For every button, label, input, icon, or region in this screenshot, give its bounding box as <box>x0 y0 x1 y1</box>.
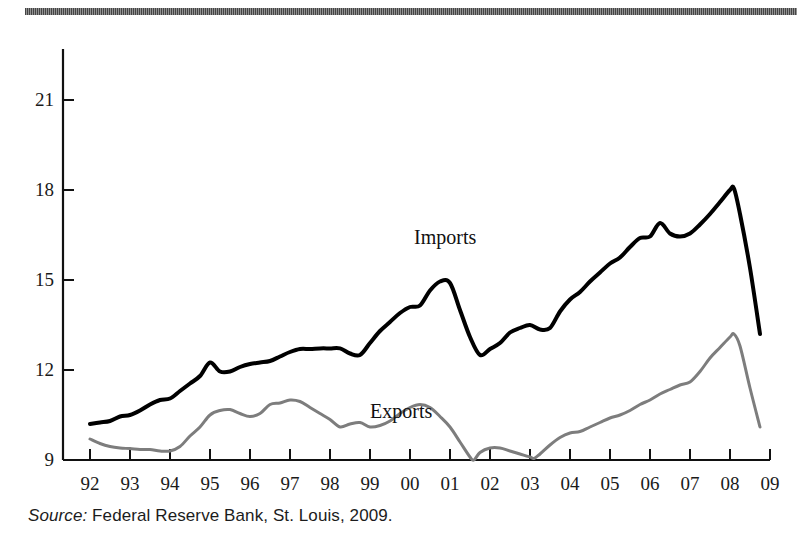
y-tick-label: 9 <box>18 450 54 469</box>
chart-plot-area <box>0 0 797 500</box>
series-line-imports <box>90 187 760 424</box>
figure-container: 912151821 929394959697989900010203040506… <box>0 0 797 541</box>
x-tick-label: 03 <box>513 474 547 493</box>
x-tick-label: 07 <box>673 474 707 493</box>
x-tick-label: 04 <box>553 474 587 493</box>
x-tick-label: 01 <box>433 474 467 493</box>
x-tick-label: 05 <box>593 474 627 493</box>
line-chart-svg <box>0 0 797 500</box>
x-tick-label: 94 <box>153 474 187 493</box>
source-prefix: Source: <box>28 506 87 525</box>
x-tick-label: 09 <box>753 474 787 493</box>
x-tick-label: 08 <box>713 474 747 493</box>
source-caption: Source: Federal Reserve Bank, St. Louis,… <box>28 506 393 526</box>
source-text: Federal Reserve Bank, St. Louis, 2009. <box>87 506 392 525</box>
x-tick-label: 93 <box>113 474 147 493</box>
x-tick-label: 92 <box>73 474 107 493</box>
series-label-imports: Imports <box>414 226 476 249</box>
series-label-exports: Exports <box>370 400 432 423</box>
series-line-exports <box>90 334 760 461</box>
x-tick-label: 98 <box>313 474 347 493</box>
y-tick-label: 21 <box>18 90 54 109</box>
x-tick-label: 00 <box>393 474 427 493</box>
x-tick-label: 06 <box>633 474 667 493</box>
y-tick-label: 18 <box>18 180 54 199</box>
x-tick-label: 02 <box>473 474 507 493</box>
x-tick-label: 96 <box>233 474 267 493</box>
y-tick-label: 15 <box>18 270 54 289</box>
x-tick-label: 99 <box>353 474 387 493</box>
x-tick-label: 97 <box>273 474 307 493</box>
x-tick-label: 95 <box>193 474 227 493</box>
y-tick-label: 12 <box>18 360 54 379</box>
